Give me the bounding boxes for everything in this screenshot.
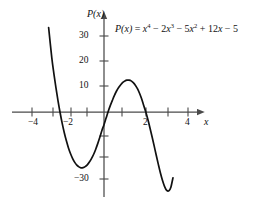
x-tick-label-2: 2 [143, 118, 148, 128]
equation-term4-coef: 12 [208, 23, 218, 34]
y-axis-label: P(x) [87, 9, 104, 19]
equation-annotation: P(x) = x4 − 2x3 − 5x2 + 12x − 5 [115, 24, 238, 34]
equation-term5-const: 5 [233, 23, 238, 34]
x-axis [12, 108, 198, 117]
x-tick-label-4: 4 [185, 118, 190, 128]
x-tick-label--2: −2 [63, 118, 73, 128]
equation-lhs: P(x) [115, 23, 132, 34]
x-axis-label: x [204, 117, 208, 127]
x-tick-label--4: −4 [28, 118, 38, 128]
y-axis [100, 18, 109, 197]
y-tick-label-10: 10 [79, 81, 89, 91]
y-tick-label-30: 30 [79, 31, 89, 41]
y-tick-label-20: 20 [79, 56, 89, 66]
polynomial-curve [49, 28, 173, 192]
y-tick-label--30: −30 [74, 174, 89, 184]
polynomial-graph-figure: 30 20 10 −30 −4 −2 2 4 P(x) x P(x) = x4 … [0, 0, 255, 211]
